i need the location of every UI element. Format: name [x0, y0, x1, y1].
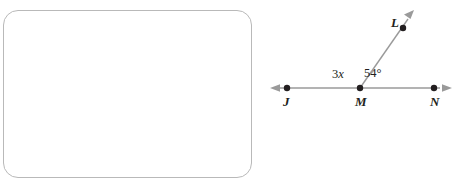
- point-L-dot: [400, 25, 406, 31]
- point-N-dot: [431, 85, 437, 91]
- answer-box[interactable]: [3, 10, 252, 178]
- geometry-diagram: J M N L 3x 54°: [258, 0, 456, 183]
- diagram-svg: [258, 0, 456, 183]
- arrowhead-right: [442, 84, 452, 92]
- point-label-L: L: [391, 16, 399, 29]
- angle-label-3x: 3x: [332, 68, 344, 81]
- point-J-dot: [284, 85, 290, 91]
- figure-page: J M N L 3x 54°: [0, 0, 456, 183]
- point-label-J: J: [283, 95, 290, 108]
- angle-label-54: 54°: [364, 67, 382, 80]
- point-label-M: M: [355, 95, 367, 108]
- arrowhead-left: [270, 84, 280, 92]
- angle-3x-variable: x: [338, 67, 344, 81]
- point-label-N: N: [430, 95, 439, 108]
- arrowhead-ray-L: [404, 10, 414, 19]
- point-M-dot: [357, 85, 363, 91]
